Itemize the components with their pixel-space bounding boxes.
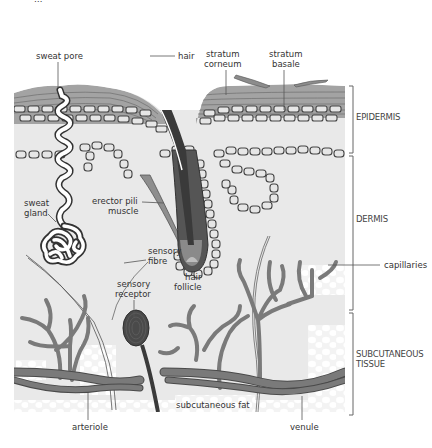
bracket-epidermis bbox=[349, 86, 353, 153]
label-sweat-gland-1: sweat bbox=[24, 198, 50, 208]
label-erector-pili-2: muscle bbox=[108, 206, 138, 216]
label-stratum-basale-2: basale bbox=[272, 59, 300, 69]
label-sweat-gland-2: gland bbox=[24, 208, 48, 218]
label-hair: hair bbox=[178, 51, 195, 61]
layer-label-tissue: TISSUE bbox=[355, 359, 385, 369]
label-sensory-receptor-1: sensory bbox=[117, 279, 150, 289]
layer-label-subcutaneous: SUBCUTANEOUS bbox=[356, 349, 423, 359]
label-stratum-corneum-1: stratum bbox=[206, 49, 239, 59]
layer-brackets bbox=[349, 86, 353, 415]
label-hair-follicle-1: hair bbox=[185, 272, 202, 282]
bracket-subcutaneous bbox=[349, 313, 353, 415]
label-hair-follicle-2: follicle bbox=[174, 282, 202, 292]
layer-label-epidermis: EPIDERMIS bbox=[356, 112, 400, 122]
label-venule: venule bbox=[290, 422, 319, 432]
label-stratum-basale-1: stratum bbox=[269, 49, 302, 59]
bracket-dermis bbox=[349, 156, 353, 310]
clipped-caption: … bbox=[34, 0, 43, 4]
label-sensory-fibre-2: fibre bbox=[148, 256, 167, 266]
label-sweat-pore: sweat pore bbox=[36, 51, 83, 61]
label-sensory-fibre-1: sensory bbox=[148, 246, 181, 256]
layer-label-dermis: DERMIS bbox=[356, 214, 388, 224]
label-subcutaneous-fat: subcutaneous fat bbox=[176, 400, 250, 410]
label-stratum-corneum-2: corneum bbox=[204, 59, 242, 69]
label-arteriole: arteriole bbox=[72, 422, 108, 432]
label-capillaries: capillaries bbox=[384, 260, 428, 270]
skin-cross-section-diagram: … bbox=[0, 0, 432, 448]
label-erector-pili-1: erector pili bbox=[92, 196, 138, 206]
label-sensory-receptor-2: receptor bbox=[115, 289, 151, 299]
